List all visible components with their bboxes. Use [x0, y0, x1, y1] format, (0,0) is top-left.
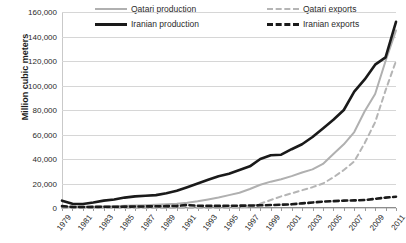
x-axis-tick-label: 2007: [347, 213, 365, 233]
x-axis-tick-label: 2009: [368, 213, 386, 233]
x-axis-tick-label: 1981: [76, 213, 94, 233]
series-line-iranian-production: [62, 22, 396, 204]
x-axis-tick-mark: [271, 208, 272, 211]
series-line-qatari-exports: [62, 61, 396, 208]
x-axis-tick-label: 1979: [55, 213, 73, 233]
y-axis-tick-label: 140,000: [28, 32, 57, 41]
x-axis-tick-mark: [250, 208, 251, 211]
x-axis-tick-label: 2005: [326, 213, 344, 233]
x-axis-tick-mark: [281, 208, 282, 211]
series-layer: [62, 12, 396, 208]
x-axis-tick-label: 2003: [306, 213, 324, 233]
x-axis-tick-mark: [333, 208, 334, 211]
x-axis-tick-label: 1989: [159, 213, 177, 233]
x-axis-tick-label: 1987: [139, 213, 157, 233]
x-axis-tick-label: 1983: [97, 213, 115, 233]
gas-production-exports-line-chart: Qatari production Iranian production Qat…: [0, 0, 406, 243]
x-axis-tick-mark: [292, 208, 293, 211]
x-axis-tick-label: 1991: [180, 213, 198, 233]
x-axis-tick-mark: [344, 208, 345, 211]
x-axis-tick-label: 1993: [201, 213, 219, 233]
y-axis-tick-label: 20,000: [33, 179, 57, 188]
x-axis-tick-label: 1999: [264, 213, 282, 233]
x-axis-tick-mark: [323, 208, 324, 211]
x-axis-tick-label: 2001: [285, 213, 303, 233]
x-axis-tick-label: 1997: [243, 213, 261, 233]
x-axis-tick-mark: [386, 208, 387, 211]
x-axis-tick-mark: [260, 208, 261, 211]
x-axis-tick-mark: [104, 208, 105, 211]
y-axis-tick-label: 120,000: [28, 57, 57, 66]
x-axis-tick-mark: [302, 208, 303, 211]
x-axis-tick-label: 1995: [222, 213, 240, 233]
y-axis-tick-label: 80,000: [33, 106, 57, 115]
y-axis-tick-label: 40,000: [33, 155, 57, 164]
y-axis-tick-label: 100,000: [28, 81, 57, 90]
x-axis-tick-mark: [375, 208, 376, 211]
series-line-qatari-production: [62, 30, 396, 207]
x-axis-tick-mark: [365, 208, 366, 211]
x-axis-tick-mark: [396, 208, 397, 211]
x-axis-tick-label: 2011: [389, 213, 406, 232]
x-axis-tick-mark: [313, 208, 314, 211]
x-axis-tick-mark: [239, 208, 240, 211]
plot-area: 020,00040,00060,00080,000100,000120,0001…: [62, 12, 396, 208]
y-axis-tick-label: 0: [53, 204, 57, 213]
x-axis-tick-mark: [177, 208, 178, 211]
y-axis-tick-label: 160,000: [28, 8, 57, 17]
x-axis-tick-mark: [354, 208, 355, 211]
x-axis-tick-mark: [114, 208, 115, 211]
x-axis-tick-label: 1985: [118, 213, 136, 233]
y-axis-tick-label: 60,000: [33, 130, 57, 139]
